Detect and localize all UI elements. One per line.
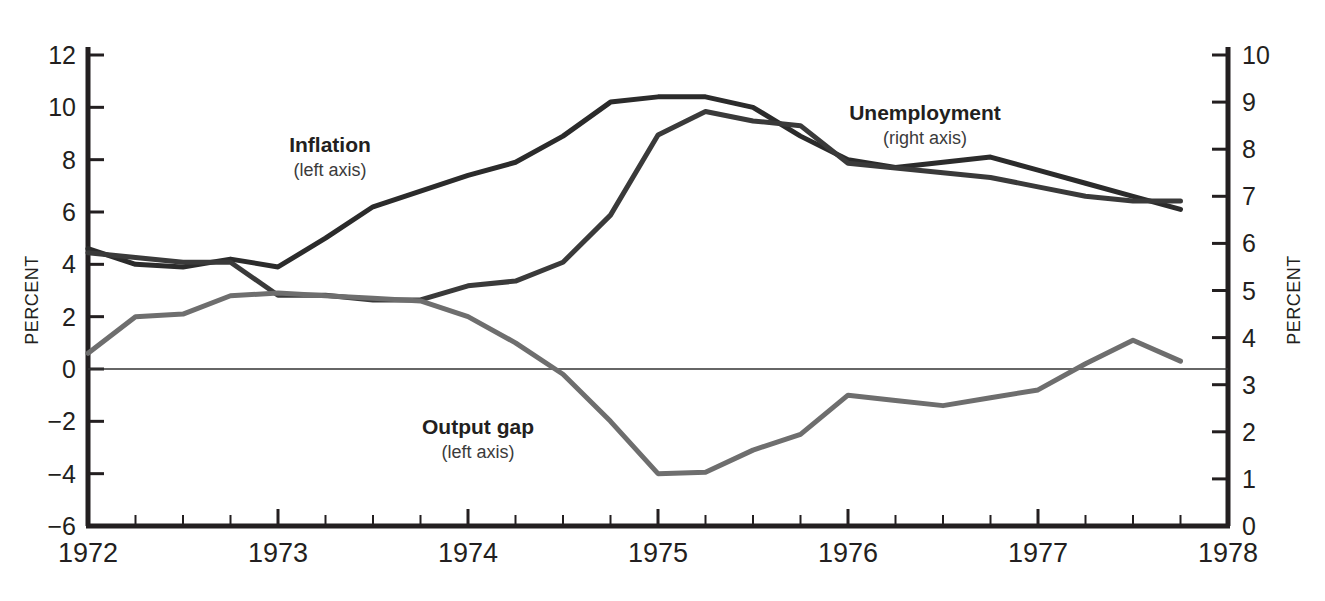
x-axis-year-label: 1977 — [1008, 538, 1068, 568]
x-axis-year-label: 1978 — [1198, 538, 1258, 568]
right-axis-tick-label: 9 — [1242, 88, 1256, 116]
unemployment-label-subtitle: (right axis) — [883, 128, 967, 148]
right-axis-tick-label: 4 — [1242, 324, 1256, 352]
inflation-label-title: Inflation — [289, 133, 371, 156]
output-gap-label-subtitle: (left axis) — [441, 442, 514, 462]
right-axis-tick-label: 2 — [1242, 418, 1256, 446]
x-axis-year-label: 1972 — [58, 538, 118, 568]
right-axis-tick-label: 10 — [1242, 41, 1270, 69]
right-axis-tick-label: 5 — [1242, 277, 1256, 305]
left-axis-tick-label: 0 — [62, 355, 76, 383]
left-axis-tick-label: 12 — [48, 41, 76, 69]
right-axis-title: PERCENT — [1284, 255, 1304, 345]
left-axis-tick-label: 4 — [62, 250, 76, 278]
inflation-label-subtitle: (left axis) — [293, 160, 366, 180]
right-axis-tick-label: 7 — [1242, 182, 1256, 210]
right-axis-tick-label: 0 — [1242, 512, 1256, 540]
chart-background — [0, 0, 1325, 601]
x-axis-year-label: 1974 — [438, 538, 498, 568]
line-chart: 121086420−2−4−61098765432101972197319741… — [0, 0, 1325, 601]
output-gap-label-title: Output gap — [422, 415, 534, 438]
right-axis-tick-label: 1 — [1242, 465, 1256, 493]
x-axis-year-label: 1973 — [248, 538, 308, 568]
left-axis-tick-label: −2 — [47, 407, 76, 435]
left-axis-title: PERCENT — [22, 255, 42, 345]
right-axis-tick-label: 6 — [1242, 229, 1256, 257]
chart-canvas: 121086420−2−4−61098765432101972197319741… — [0, 0, 1325, 601]
left-axis-tick-label: 8 — [62, 146, 76, 174]
left-axis-tick-label: −6 — [47, 512, 76, 540]
unemployment-label-title: Unemployment — [849, 101, 1001, 124]
x-axis-year-label: 1975 — [628, 538, 688, 568]
x-axis-year-label: 1976 — [818, 538, 878, 568]
left-axis-tick-label: 10 — [48, 93, 76, 121]
left-axis-tick-label: −4 — [47, 460, 76, 488]
right-axis-tick-label: 3 — [1242, 371, 1256, 399]
left-axis-tick-label: 6 — [62, 198, 76, 226]
left-axis-tick-label: 2 — [62, 303, 76, 331]
right-axis-tick-label: 8 — [1242, 135, 1256, 163]
